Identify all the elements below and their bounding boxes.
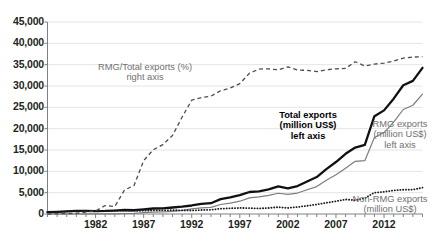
- x-axis-tick-label: 1987: [124, 219, 164, 230]
- y-axis-tick-label: 15,000: [0, 144, 49, 155]
- total-exports-label: Total exports (million US$) left axis: [275, 110, 341, 141]
- x-axis-tick-label: 1997: [220, 219, 260, 230]
- axis-lines: [48, 22, 423, 214]
- y-axis-tick-label: 20,000: [0, 123, 49, 134]
- rmg-exports-label: RMG exports (million US$) left axis: [366, 119, 434, 150]
- y-axis-tick-label: 35,000: [0, 59, 49, 70]
- x-axis-tick-label: 2012: [364, 219, 404, 230]
- rmg-share-label: RMG/Total exports (%) right axis: [86, 62, 204, 83]
- y-axis-tick-label: 30,000: [0, 80, 49, 91]
- y-axis-tick-label: 25,000: [0, 101, 49, 112]
- y-axis-tick-label: 45,000: [0, 16, 49, 27]
- x-axis-tick-label: 1982: [76, 219, 116, 230]
- y-axis-tick-label: 10,000: [0, 165, 49, 176]
- chart-container: 05,00010,00015,00020,00025,00030,00035,0…: [0, 0, 437, 246]
- non-rmg-exports-label: Non-RMG exports (million US$): [344, 194, 436, 215]
- y-axis-tick-label: 5,000: [0, 187, 49, 198]
- y-axis-tick-label: 40,000: [0, 37, 49, 48]
- y-axis-tick-label: 0: [0, 208, 49, 219]
- x-axis-tick-label: 2007: [316, 219, 356, 230]
- gridlines: [48, 22, 423, 193]
- x-axis-tick-label: 1992: [172, 219, 212, 230]
- x-axis-tick-label: 2002: [268, 219, 308, 230]
